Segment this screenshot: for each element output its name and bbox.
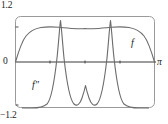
curve-label-f-double-prime: f″ (32, 80, 39, 90)
figure-container: 1.2 −1.2 0 π f f″ (0, 0, 168, 124)
origin-label: 0 (3, 57, 8, 67)
y-axis-max-label: 1.2 (1, 1, 12, 11)
plot-canvas (0, 0, 168, 124)
y-axis-min-label: −1.2 (0, 111, 16, 121)
curve-label-f: f (131, 38, 134, 48)
x-axis-max-label: π (157, 58, 162, 68)
